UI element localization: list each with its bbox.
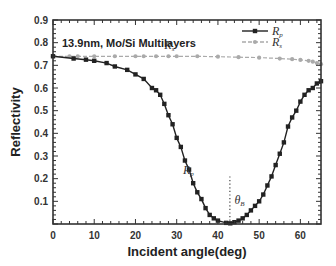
data-point-rp bbox=[84, 57, 88, 61]
data-point-rs bbox=[175, 54, 179, 58]
data-point-rp bbox=[261, 192, 265, 196]
x-tick-label: 10 bbox=[89, 230, 101, 241]
data-point-rp bbox=[298, 99, 302, 103]
data-point-rp bbox=[265, 183, 269, 187]
data-point-rp bbox=[179, 145, 183, 149]
y-tick-label: 0.8 bbox=[34, 37, 48, 48]
data-point-rp bbox=[286, 124, 290, 128]
y-tick-label: 0.5 bbox=[34, 105, 48, 116]
data-point-rs bbox=[76, 54, 80, 58]
data-point-rp bbox=[166, 113, 170, 117]
data-point-rp bbox=[158, 93, 162, 97]
data-point-rp bbox=[142, 77, 146, 81]
x-tick-label: 30 bbox=[171, 230, 183, 241]
data-point-rs bbox=[290, 57, 294, 61]
annotation-θb: θB bbox=[234, 193, 245, 208]
data-point-rp bbox=[282, 140, 286, 144]
y-tick-label: 0.3 bbox=[34, 151, 48, 162]
legend: RpRs bbox=[242, 24, 283, 50]
chart-annotation: 13.9nm, Mo/Si Multilayers bbox=[62, 37, 196, 49]
x-tick-label: 0 bbox=[50, 230, 56, 241]
legend-marker-rs bbox=[253, 40, 257, 44]
data-point-rs bbox=[92, 54, 96, 58]
legend-marker-rp bbox=[253, 29, 257, 33]
data-point-rp bbox=[253, 204, 257, 208]
data-point-rs bbox=[216, 55, 220, 59]
data-point-rs bbox=[133, 54, 137, 58]
data-point-rs bbox=[257, 56, 261, 60]
data-point-rp bbox=[125, 68, 129, 72]
data-point-rp bbox=[170, 122, 174, 126]
data-point-rp bbox=[207, 213, 211, 217]
annotation-rp: Rp bbox=[182, 163, 194, 178]
data-point-rs bbox=[142, 54, 146, 58]
data-point-rp bbox=[199, 197, 203, 201]
data-point-rp bbox=[154, 88, 158, 92]
data-point-rs bbox=[307, 59, 311, 63]
data-point-rp bbox=[240, 216, 244, 220]
data-point-rs bbox=[195, 54, 199, 58]
y-tick-label: 0.4 bbox=[34, 128, 48, 139]
y-tick-label: 0.7 bbox=[34, 60, 48, 71]
data-point-rp bbox=[133, 72, 137, 76]
data-point-rp bbox=[195, 190, 199, 194]
data-point-rp bbox=[183, 158, 187, 162]
data-point-rp bbox=[71, 56, 75, 60]
data-point-rp bbox=[191, 181, 195, 185]
data-point-rp bbox=[92, 59, 96, 63]
reflectivity-chart: RsRpθB 01020304050600.10.20.30.40.50.60.… bbox=[0, 0, 336, 266]
data-point-rp bbox=[311, 86, 315, 90]
data-point-rp bbox=[306, 88, 310, 92]
data-point-rs bbox=[166, 54, 170, 58]
data-point-rp bbox=[294, 108, 298, 112]
y-tick-label: 0.9 bbox=[34, 15, 48, 26]
data-point-rp bbox=[150, 86, 154, 90]
data-point-rp bbox=[269, 174, 273, 178]
y-tick-label: 0.6 bbox=[34, 83, 48, 94]
x-tick-label: 20 bbox=[130, 230, 142, 241]
data-point-rp bbox=[245, 213, 249, 217]
data-point-rs bbox=[315, 61, 319, 65]
data-point-rp bbox=[278, 152, 282, 156]
data-point-rp bbox=[104, 61, 108, 65]
data-point-rs bbox=[154, 54, 158, 58]
x-axis-title: Incident angle(deg) bbox=[127, 244, 246, 259]
data-point-rp bbox=[302, 93, 306, 97]
x-tick-label: 50 bbox=[254, 230, 266, 241]
data-point-rs bbox=[278, 56, 282, 60]
y-tick-label: 0.2 bbox=[34, 173, 48, 184]
data-point-rs bbox=[236, 55, 240, 59]
data-point-rp bbox=[212, 216, 216, 220]
plot-area: RsRpθB bbox=[51, 38, 323, 225]
x-tick-label: 60 bbox=[295, 230, 307, 241]
data-point-rs bbox=[298, 58, 302, 62]
y-axis-title: Reflectivity bbox=[8, 87, 23, 157]
data-point-rs bbox=[113, 54, 117, 58]
data-point-rp bbox=[290, 115, 294, 119]
data-point-rp bbox=[273, 163, 277, 167]
data-point-rp bbox=[113, 64, 117, 68]
plot-frame bbox=[53, 20, 321, 224]
y-tick-label: 0.1 bbox=[34, 196, 48, 207]
data-point-rp bbox=[174, 136, 178, 140]
data-point-rp bbox=[203, 206, 207, 210]
data-point-rp bbox=[236, 218, 240, 222]
series-line-rp bbox=[53, 56, 321, 223]
data-point-rp bbox=[257, 199, 261, 203]
data-point-rp bbox=[162, 102, 166, 106]
data-point-rp bbox=[249, 208, 253, 212]
x-tick-label: 40 bbox=[212, 230, 224, 241]
data-point-rs bbox=[311, 60, 315, 64]
